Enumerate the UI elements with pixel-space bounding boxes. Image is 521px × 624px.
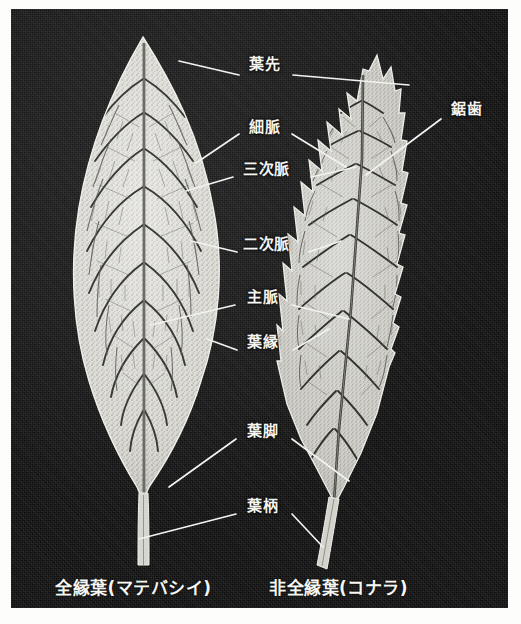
label-petiole: 葉柄 [247,498,278,514]
label-midrib: 主脈 [247,289,278,305]
caption-left-specimen: 全縁葉(マテバシイ) [55,574,212,599]
leader-veinlet-left [196,134,239,163]
leaf-illustration-stage [11,9,508,608]
label-margin: 葉縁 [247,334,278,350]
leaf-anatomy-figure: 葉先 鋸歯 細脈 三次脈 二次脈 主脈 葉縁 葉脚 葉柄 全縁葉(マテバシイ) … [0,0,521,624]
diagram-panel: 葉先 鋸歯 細脈 三次脈 二次脈 主脈 葉縁 葉脚 葉柄 全縁葉(マテバシイ) … [11,9,508,608]
leader-apex-left [179,61,239,75]
right-leaf-serrate-margin [266,39,426,569]
leader-base-left [169,439,236,487]
label-secondary-vein: 二次脈 [243,236,290,252]
label-apex: 葉先 [249,56,280,72]
caption-right-specimen: 非全縁葉(コナラ) [269,574,408,599]
label-veinlet: 細脈 [249,119,280,135]
left-leaf-entire-margin [61,19,251,565]
leader-petiole-right [292,514,323,547]
label-tertiary-vein: 三次脈 [243,161,290,177]
label-serration: 鋸歯 [451,101,482,117]
leader-petiole-left [139,514,236,539]
label-leaf-base: 葉脚 [247,423,278,439]
